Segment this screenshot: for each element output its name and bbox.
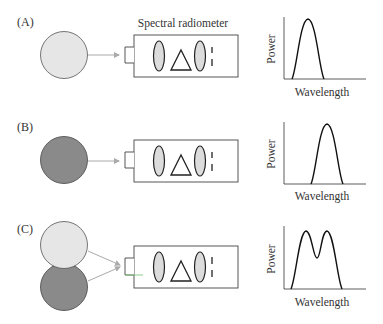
panel-b: (B) Power Wavelength bbox=[17, 120, 366, 203]
spectral-radiometer-box bbox=[125, 140, 238, 182]
spectrum-plot-a: Power Wavelength bbox=[265, 17, 366, 99]
y-axis-label: Power bbox=[265, 244, 277, 274]
spectrum-plot-c: Power Wavelength bbox=[265, 226, 366, 309]
panel-label-c: (C) bbox=[17, 222, 33, 236]
lens-icon bbox=[195, 146, 206, 176]
prism-icon bbox=[171, 50, 191, 70]
lens-icon bbox=[154, 41, 165, 71]
spectrum-curve bbox=[291, 231, 342, 289]
prism-icon bbox=[171, 155, 191, 175]
entrance-port bbox=[125, 152, 134, 168]
lens-icon bbox=[154, 146, 165, 176]
spectrum-curve bbox=[292, 19, 324, 79]
dark-source-circle bbox=[41, 264, 88, 311]
x-axis-label: Wavelength bbox=[295, 190, 350, 203]
spectrum-plot-b: Power Wavelength bbox=[265, 122, 366, 203]
dark-source-circle bbox=[41, 137, 88, 184]
y-axis-label: Power bbox=[265, 34, 277, 64]
lens-icon bbox=[195, 252, 206, 282]
light-source-circle bbox=[41, 222, 88, 269]
panel-a: (A) Spectral radiometer Power Wavelength bbox=[17, 15, 366, 99]
light-ray-arrow bbox=[88, 251, 120, 265]
plot-axes bbox=[284, 17, 366, 79]
light-source-circle bbox=[41, 32, 88, 79]
instrument-title: Spectral radiometer bbox=[138, 17, 229, 30]
y-axis-label: Power bbox=[265, 139, 277, 169]
lens-icon bbox=[195, 41, 206, 71]
plot-axes bbox=[284, 226, 366, 289]
x-axis-label: Wavelength bbox=[295, 86, 350, 99]
panel-label-a: (A) bbox=[17, 15, 34, 29]
panel-c: (C) Power Wavelength bbox=[17, 222, 366, 311]
spectrum-curve bbox=[311, 124, 343, 184]
x-axis-label: Wavelength bbox=[295, 296, 350, 309]
spectral-radiometer-figure: (A) Spectral radiometer Power Wavelength… bbox=[0, 0, 383, 324]
light-ray-arrow bbox=[88, 267, 120, 281]
panel-label-b: (B) bbox=[17, 120, 33, 134]
entrance-port bbox=[125, 258, 134, 275]
spectral-radiometer-box bbox=[125, 35, 238, 77]
spectral-radiometer-box bbox=[125, 246, 238, 288]
plot-axes bbox=[284, 122, 366, 184]
lens-icon bbox=[154, 252, 165, 282]
entrance-port bbox=[125, 47, 134, 63]
prism-icon bbox=[171, 261, 191, 281]
